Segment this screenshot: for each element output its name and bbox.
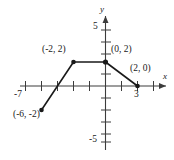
- point-label-neg6-neg2: (-6, -2): [13, 110, 40, 120]
- data-point-0-2: [103, 59, 108, 64]
- y-tick-label-5: 5: [93, 22, 98, 32]
- data-point-2-0: [135, 84, 140, 89]
- point-label-neg2-2: (-2, 2): [42, 45, 66, 55]
- y-axis-name-label: y: [100, 5, 104, 14]
- coordinate-plane-svg: [0, 0, 174, 160]
- graph-figure: (-2, 2) (0, 2) (2, 0) (-6, -2) -7 3 5 -5…: [0, 0, 174, 160]
- point-label-2-0: (2, 0): [130, 64, 151, 74]
- y-axis: [103, 16, 109, 150]
- x-tick-label-3: 3: [134, 90, 139, 100]
- point-label-0-2: (0, 2): [111, 45, 132, 55]
- x-axis-name-label: x: [163, 72, 167, 81]
- data-point-neg2-2: [71, 60, 76, 65]
- y-tick-label-neg5: -5: [89, 135, 97, 145]
- x-tick-label-neg7: -7: [14, 90, 22, 100]
